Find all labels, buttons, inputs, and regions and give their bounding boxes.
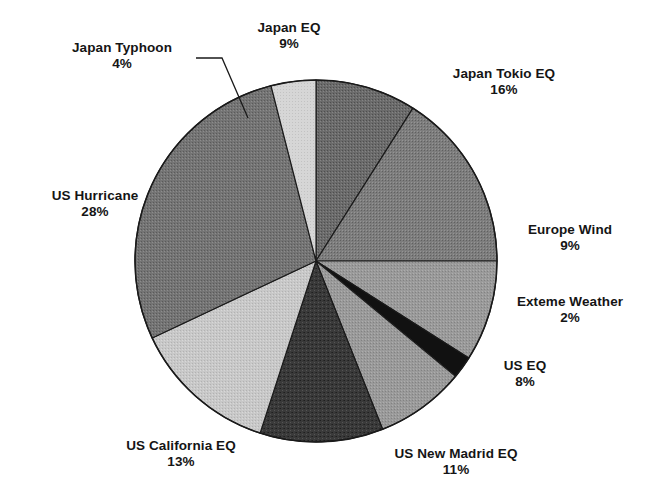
- pie-label-us-hurricane-percent: 28%: [20, 204, 170, 220]
- pie-label-us-california-eq: US California EQ 13%: [86, 438, 276, 471]
- pie-label-japan-eq-percent: 9%: [224, 36, 354, 52]
- pie-label-exteme-weather-percent: 2%: [492, 310, 648, 326]
- pie-label-japan-eq: Japan EQ 9%: [224, 20, 354, 53]
- pie-label-japan-tokio-eq-percent: 16%: [424, 82, 584, 98]
- pie-label-japan-tokio-eq: Japan Tokio EQ 16%: [424, 66, 584, 99]
- pie-label-us-eq-percent: 8%: [470, 374, 580, 390]
- pie-label-us-eq: US EQ 8%: [470, 358, 580, 391]
- pie-label-japan-typhoon-percent: 4%: [52, 56, 192, 72]
- pie-label-exteme-weather: Exteme Weather 2%: [492, 294, 648, 327]
- pie-label-us-new-madrid-eq-name: US New Madrid EQ: [366, 446, 546, 462]
- pie-label-japan-typhoon: Japan Typhoon 4%: [52, 40, 192, 73]
- pie-label-us-eq-name: US EQ: [470, 358, 580, 374]
- pie-label-japan-tokio-eq-name: Japan Tokio EQ: [424, 66, 584, 82]
- pie-label-us-hurricane-name: US Hurricane: [20, 188, 170, 204]
- pie-label-us-new-madrid-eq-percent: 11%: [366, 462, 546, 478]
- pie-label-us-new-madrid-eq: US New Madrid EQ 11%: [366, 446, 546, 479]
- pie-label-europe-wind: Europe Wind 9%: [500, 222, 640, 255]
- pie-label-us-california-eq-name: US California EQ: [86, 438, 276, 454]
- pie-label-europe-wind-percent: 9%: [500, 238, 640, 254]
- pie-label-europe-wind-name: Europe Wind: [500, 222, 640, 238]
- pie-label-us-hurricane: US Hurricane 28%: [20, 188, 170, 221]
- pie-slice-group: [135, 80, 497, 442]
- pie-chart-figure: Japan Typhoon 4% Japan EQ 9% Japan Tokio…: [0, 0, 648, 504]
- pie-label-exteme-weather-name: Exteme Weather: [492, 294, 648, 310]
- pie-label-japan-typhoon-name: Japan Typhoon: [52, 40, 192, 56]
- pie-label-japan-eq-name: Japan EQ: [224, 20, 354, 36]
- pie-label-us-california-eq-percent: 13%: [86, 454, 276, 470]
